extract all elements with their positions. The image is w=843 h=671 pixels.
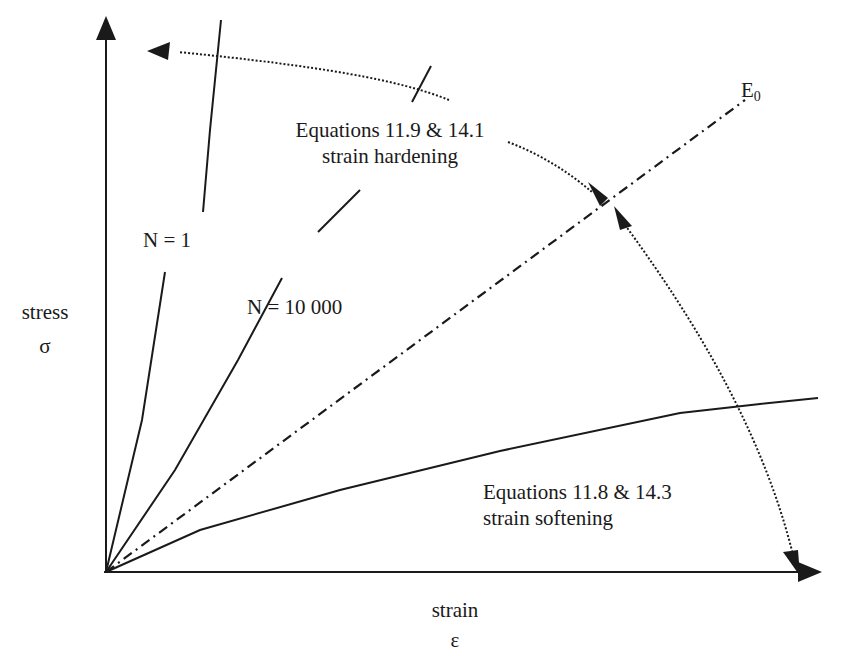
x-axis-label: strain ε	[410, 598, 500, 652]
hardening-direction-arc	[178, 52, 449, 100]
hardening-arrow-left-icon	[147, 42, 170, 60]
hardening-annotation: Equations 11.9 & 14.1 strain hardening	[240, 118, 540, 168]
e0-label-main: E	[741, 78, 754, 102]
softening-annotation: Equations 11.8 & 14.3 strain softening	[483, 480, 672, 530]
y-axis-title: stress	[10, 300, 80, 324]
y-axis-arrow-icon	[96, 16, 116, 40]
softening-equations: Equations 11.8 & 14.3	[483, 480, 672, 504]
stress-strain-diagram: stress σ strain ε E0 Equations 11.9 & 14…	[0, 0, 843, 671]
n1-curve-upper	[203, 20, 221, 212]
x-axis-arrow-icon	[798, 562, 822, 582]
e0-label: E0	[741, 78, 761, 109]
softening-caption: strain softening	[483, 506, 672, 530]
n10000-curve-lower	[106, 278, 282, 572]
x-axis	[104, 562, 822, 582]
y-axis-label: stress σ	[10, 300, 80, 358]
hardening-equations: Equations 11.9 & 14.1	[240, 118, 540, 142]
softening-curve	[106, 398, 818, 572]
n10000-curve-upper	[318, 190, 360, 232]
diagram-canvas	[0, 0, 843, 671]
x-axis-symbol: ε	[410, 628, 500, 652]
hardening-caption: strain hardening	[240, 144, 540, 168]
n10000-curve-tip	[412, 66, 431, 102]
softening-arrow-e0-icon	[614, 206, 632, 230]
n10000-label: N = 10 000	[247, 295, 342, 319]
y-axis-symbol: σ	[10, 334, 80, 358]
x-axis-title: strain	[410, 598, 500, 622]
y-axis	[96, 16, 116, 572]
e0-label-subscript: 0	[754, 89, 761, 104]
n1-label: N = 1	[143, 228, 191, 252]
